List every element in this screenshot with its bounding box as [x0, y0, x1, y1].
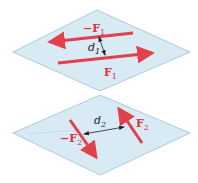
plane-2 [13, 95, 190, 175]
top-plane: −F1 d1 F1 [13, 10, 190, 91]
couples-diagram: −F1 d1 F1 d2 −F2 F2 [0, 0, 198, 183]
bottom-plane: d2 −F2 F2 [13, 95, 190, 175]
plane-1 [13, 10, 190, 91]
